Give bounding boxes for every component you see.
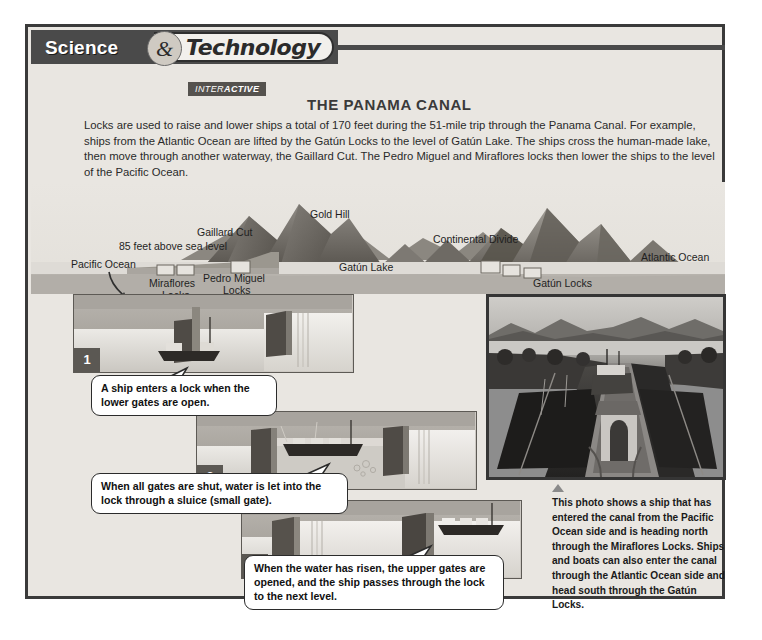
canal-profile-map: Gold Hill Gaillard Cut 85 feet above sea…: [31, 182, 725, 294]
map-label-gaillard-cut: Gaillard Cut: [197, 226, 252, 238]
map-label-gold-hill: Gold Hill: [310, 208, 350, 220]
banner-rule: [331, 45, 725, 50]
map-label-elevation: 85 feet above sea level: [119, 240, 227, 252]
intro-paragraph: Locks are used to raise and lower ships …: [84, 118, 717, 180]
interactive-badge-prefix: INTER: [195, 84, 224, 94]
lock-diagram-step-1: 1: [73, 294, 354, 373]
map-label-atlantic-ocean: Atlantic Ocean: [641, 251, 709, 263]
callout-step-2: When all gates are shut, water is let in…: [91, 473, 348, 514]
map-label-continental-divide: Continental Divide: [433, 233, 518, 245]
step-number-1: 1: [74, 348, 100, 372]
map-label-gatun-locks: Gatún Locks: [533, 277, 592, 289]
article-inner: Science & Technology INTERACTIVE THE PAN…: [31, 30, 719, 593]
article-frame: Science & Technology INTERACTIVE THE PAN…: [25, 24, 725, 599]
photo-caption: This photo shows a ship that has entered…: [552, 496, 727, 613]
map-label-pedro-miguel-locks-line1: Pedro Miguel: [203, 272, 265, 284]
miraflores-locks-photo-svg: [489, 297, 723, 477]
masthead-science-label: Science: [45, 37, 118, 59]
ampersand-badge: &: [147, 31, 182, 66]
interactive-badge-suffix: ACTIVE: [224, 84, 259, 94]
page-root: Science & Technology INTERACTIVE THE PAN…: [0, 0, 762, 640]
caption-marker-triangle-icon: [552, 484, 564, 492]
ampersand-glyph: &: [148, 32, 181, 65]
page-title: THE PANAMA CANAL: [307, 96, 472, 113]
miraflores-locks-photo: [486, 294, 726, 480]
map-label-miraflores-locks-line1: Miraflores: [149, 277, 195, 289]
callout-step-1: A ship enters a lock when the lower gate…: [91, 375, 277, 416]
map-label-pacific-ocean: Pacific Ocean: [71, 258, 136, 270]
masthead-technology-label: Technology: [186, 35, 320, 60]
lock-diagram-1-svg: [74, 295, 352, 371]
interactive-badge: INTERACTIVE: [188, 82, 266, 96]
map-label-gatun-lake: Gatún Lake: [339, 261, 393, 273]
callout-step-3: When the water has risen, the upper gate…: [244, 555, 504, 610]
masthead-banner: Science & Technology: [31, 30, 338, 64]
canal-profile-svg: [31, 182, 725, 294]
map-label-pedro-miguel-locks-line2: Locks: [223, 284, 250, 294]
